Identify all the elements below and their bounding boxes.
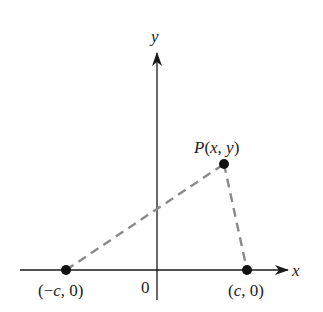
origin-label: 0: [141, 278, 150, 297]
left-focus-point: [61, 265, 71, 275]
point-p: [219, 159, 229, 169]
dashed-segment-right: [224, 164, 247, 270]
diagram-canvas: y x 0 (−c, 0) (c, 0) P(x, y): [0, 0, 323, 312]
left-focus-label: (−c, 0): [38, 281, 83, 300]
point-p-label: P(x, y): [193, 138, 239, 157]
y-axis-label: y: [149, 27, 159, 46]
right-focus-point: [242, 265, 252, 275]
x-axis-label: x: [291, 261, 300, 280]
right-focus-label: (c, 0): [228, 281, 264, 300]
coordinate-plane: y x 0 (−c, 0) (c, 0) P(x, y): [0, 0, 323, 312]
dashed-segment-left: [66, 164, 224, 270]
